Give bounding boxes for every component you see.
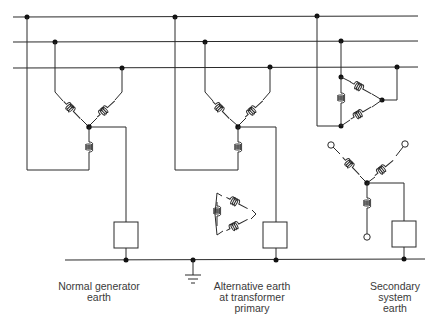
coil-icon xyxy=(349,79,374,97)
coil-icon xyxy=(225,194,250,212)
junction-dot xyxy=(274,258,279,263)
terminal-icon xyxy=(402,141,408,147)
coil-icon xyxy=(234,138,242,162)
coil-icon xyxy=(337,89,345,113)
earthing-resistor xyxy=(114,222,138,248)
label-line: primary xyxy=(197,303,307,314)
junction-dot xyxy=(124,258,129,263)
coil-icon xyxy=(95,98,118,120)
section-secondary-system-earth xyxy=(315,14,417,262)
junction-dot xyxy=(402,257,407,262)
coil-icon xyxy=(213,202,221,226)
busbars xyxy=(13,16,418,68)
coil-icon xyxy=(372,157,395,178)
busbar-3 xyxy=(13,67,418,68)
earth-bus xyxy=(65,259,425,260)
coil-icon xyxy=(349,104,373,123)
coil-icon xyxy=(85,138,93,162)
coil-icon xyxy=(243,98,266,120)
terminal-icon xyxy=(364,234,370,240)
coil-icon xyxy=(225,216,250,234)
section-normal-generator-earth xyxy=(25,15,139,263)
label-secondary-system-earth: Secondary system earth xyxy=(355,281,435,314)
label-line: earth xyxy=(44,292,154,303)
earthing-resistor xyxy=(392,221,416,247)
coil-icon xyxy=(340,155,362,177)
earth-ground-icon xyxy=(185,258,201,284)
earthing-resistor xyxy=(263,222,287,248)
busbar-2 xyxy=(13,41,418,42)
label-line: earth xyxy=(355,303,435,314)
coil-icon xyxy=(210,99,232,121)
earthing-diagram xyxy=(0,0,435,321)
coil-icon xyxy=(61,99,83,121)
coil-icon xyxy=(363,194,371,218)
label-alternative-earth: Alternative earth at transformer primary xyxy=(197,281,307,314)
section-alternative-earth xyxy=(173,15,288,263)
busbar-1 xyxy=(13,16,418,17)
delta-winding-secondary xyxy=(213,193,256,235)
label-normal-generator-earth: Normal generator earth xyxy=(44,281,154,303)
